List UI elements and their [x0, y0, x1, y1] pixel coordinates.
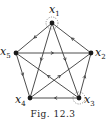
node-x2 [89, 51, 94, 56]
node-label-x3: x3 [84, 94, 95, 108]
figure-caption: Fig. 12.3 [0, 109, 106, 119]
node-label-x5: x5 [0, 46, 11, 60]
node-label-x1: x1 [49, 4, 60, 18]
node-label-x4: x4 [15, 94, 26, 108]
edges [16, 23, 91, 99]
node-x5 [14, 51, 19, 56]
node-x1 [50, 21, 55, 26]
node-x4 [28, 96, 33, 101]
node-x3 [77, 96, 82, 101]
node-label-x2: x2 [95, 47, 106, 61]
